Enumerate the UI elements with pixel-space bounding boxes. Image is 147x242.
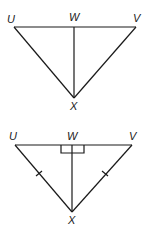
label-u: U [9,130,17,142]
label-x: X [69,100,78,112]
label-v: V [129,130,138,142]
triangle-figure-1: U W V X [7,11,142,112]
segment-vx [74,27,136,98]
segment-vx [72,145,132,212]
label-w: W [69,11,81,23]
label-u: U [7,13,15,25]
geometry-diagram: U W V X U W V X [0,0,147,242]
segment-ux [14,27,74,98]
label-w: W [67,130,79,142]
label-v: V [133,12,142,24]
segment-ux [15,145,72,212]
triangle-figure-2: U W V X [9,130,138,226]
label-x: X [67,214,76,226]
